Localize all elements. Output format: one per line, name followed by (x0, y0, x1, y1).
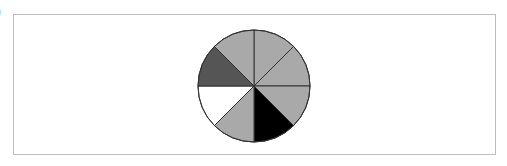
sector-group (198, 30, 310, 142)
fraction-circle (0, 0, 507, 166)
